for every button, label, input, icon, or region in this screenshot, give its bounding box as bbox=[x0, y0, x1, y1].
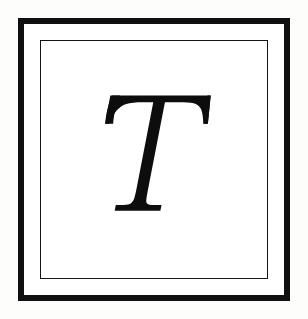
decorative-initial-T bbox=[52, 52, 256, 267]
outer-border-frame bbox=[18, 18, 290, 301]
glyph-path-T bbox=[105, 95, 211, 210]
inner-border-rule bbox=[40, 40, 268, 279]
plate-field bbox=[52, 52, 256, 267]
border-gap bbox=[30, 30, 278, 289]
glyph-serif-left bbox=[105, 95, 120, 123]
framed-initial-plate bbox=[18, 18, 290, 301]
